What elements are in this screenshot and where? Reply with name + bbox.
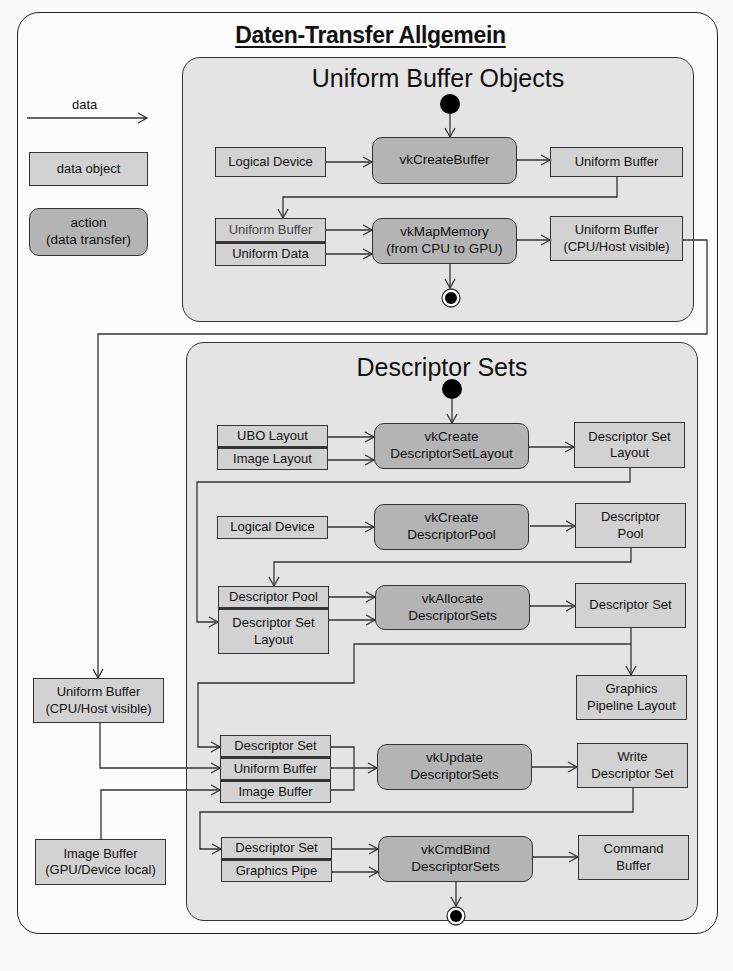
panel-title: Uniform Buffer Objects [183, 64, 693, 93]
ds-update-image-buffer: Image Buffer [220, 781, 331, 803]
ds-command-buffer: CommandBuffer [578, 835, 689, 880]
ext-image-buffer-local: Image Buffer(GPU/Device local) [35, 839, 166, 885]
ubo-uniform-buffer-out: Uniform Buffer [550, 147, 683, 177]
ds-update-uniform-buffer: Uniform Buffer [220, 758, 331, 782]
diagram-title: Daten-Transfer Allgemein [198, 22, 543, 49]
ubo-uniform-buffer-in: Uniform Buffer [215, 218, 326, 244]
panel-uniform-buffer-objects: Uniform Buffer Objects [182, 57, 694, 322]
action-vkallocatedescriptorsets: vkAllocateDescriptorSets [375, 585, 530, 630]
action-vkcreatebuffer: vkCreateBuffer [372, 137, 517, 184]
action-vkupdatedescriptorsets: vkUpdateDescriptorSets [377, 744, 532, 790]
legend-data-object: data object [29, 152, 148, 186]
action-vkcreatedescriptorpool: vkCreateDescriptorPool [374, 504, 529, 550]
ubo-uniform-data: Uniform Data [215, 243, 326, 266]
ds-logical-device: Logical Device [217, 516, 328, 539]
ds-descriptor-set-layout-in: Descriptor SetLayout [218, 609, 329, 654]
legend-arrow-label: data [72, 97, 97, 112]
ds-bind-descriptor-set: Descriptor Set [221, 837, 332, 861]
ds-descriptor-set-out: Descriptor Set [575, 583, 686, 628]
ds-update-descriptor-set: Descriptor Set [220, 735, 331, 759]
panel-title: Descriptor Sets [187, 353, 697, 382]
ds-image-layout: Image Layout [217, 448, 328, 470]
ds-ubo-layout: UBO Layout [217, 425, 328, 449]
action-vkcreatedescriptorsetlayout: vkCreateDescriptorSetLayout [374, 423, 529, 469]
ubo-uniform-buffer-visible: Uniform Buffer(CPU/Host visible) [550, 216, 683, 261]
action-vkmapmemory: vkMapMemory(from CPU to GPU) [372, 218, 517, 264]
ds-descriptor-pool-out: DescriptorPool [575, 503, 686, 548]
ds-descriptor-set-layout-out: Descriptor SetLayout [574, 422, 685, 468]
ds-descriptor-pool-in: Descriptor Pool [218, 586, 329, 610]
ds-graphics-pipeline-layout: GraphicsPipeline Layout [576, 675, 687, 720]
legend-action: action(data transfer) [29, 208, 148, 256]
ext-uniform-buffer-visible: Uniform Buffer(CPU/Host visible) [33, 678, 164, 723]
action-vkcmdbinddescriptorsets: vkCmdBindDescriptorSets [378, 836, 533, 882]
ds-write-descriptor-set: WriteDescriptor Set [577, 743, 688, 788]
ubo-logical-device: Logical Device [215, 147, 326, 177]
ds-bind-graphics-pipe: Graphics Pipe [221, 860, 332, 882]
